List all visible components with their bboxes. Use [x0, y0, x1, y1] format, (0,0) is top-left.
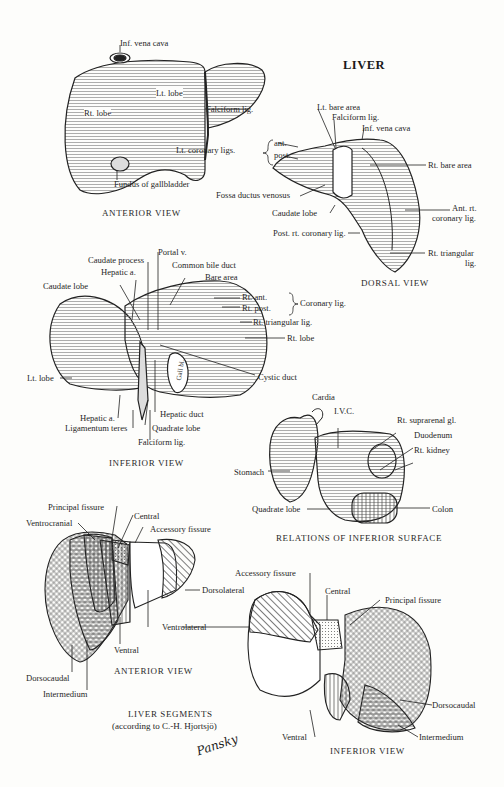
label-seg-intermedium: Intermedium: [43, 689, 87, 699]
label-inf-ventral: Ventral: [282, 732, 307, 742]
label-rt-bare-area: Rt. bare area: [428, 160, 472, 170]
label-ligamentum-teres: Ligamentum teres: [65, 423, 127, 433]
label-rt-kidney: Rt. kidney: [414, 445, 450, 455]
label-rt-ant: Rt. ant.: [242, 292, 267, 302]
label-inferior-falciform: Falciform lig.: [138, 437, 185, 447]
label-ventrolateral: Ventrolateral: [162, 622, 206, 632]
dorsal-view-drawing: [273, 109, 450, 272]
label-inf-central: Central: [325, 586, 350, 596]
label-dorsolateral: Dorsolateral: [202, 585, 244, 595]
caption-segments-inferior: INFERIOR VIEW: [330, 746, 405, 756]
label-cystic-duct: Cystic duct: [258, 372, 297, 382]
label-inferior-rt-lobe: Rt. lobe: [287, 333, 314, 343]
label-post: post.: [274, 150, 290, 160]
label-dorsal-falciform: Falciform lig.: [332, 112, 379, 122]
label-inferior-lt-lobe: Lt. lobe: [27, 373, 54, 383]
label-seg-accessory-fissure: Accessory fissure: [150, 524, 211, 534]
label-ant: ant.: [274, 138, 287, 148]
label-rt-suprarenal: Rt. suprarenal gl.: [397, 415, 456, 425]
label-inf-intermedium: Intermedium: [419, 732, 463, 742]
label-caudate-process: Caudate process: [88, 255, 144, 265]
label-ivc-relations: I.V.C.: [334, 406, 354, 416]
caption-inferior-view: INFERIOR VIEW: [109, 458, 184, 468]
caption-segments-anterior: ANTERIOR VIEW: [114, 666, 193, 676]
label-seg-ventral: Ventral: [114, 645, 139, 655]
label-ventrocranial: Ventrocranial: [26, 518, 72, 528]
label-rt-triangular-1: Rt. triangular: [428, 248, 474, 258]
label-fossa-ductus-venosus: Fossa ductus venosus: [216, 190, 290, 200]
caption-anterior-view: ANTERIOR VIEW: [102, 208, 181, 218]
brace-lt-coronary: [263, 140, 273, 165]
label-lt-lobe: Lt. lobe: [156, 88, 183, 98]
label-lt-bare-area: Lt. bare area: [317, 102, 360, 112]
label-cardia: Cardia: [312, 392, 335, 402]
label-ant-rt-coronary-1: Ant. rt.: [452, 203, 477, 213]
label-bare-area: Bare area: [205, 272, 238, 282]
label-hepatic-a-top: Hepatic a.: [101, 267, 136, 277]
label-hepatic-duct: Hepatic duct: [160, 409, 204, 419]
label-seg-central: Central: [134, 511, 159, 521]
label-duodenum: Duodenum: [414, 430, 452, 440]
label-seg-dorsocaudal: Dorsocaudal: [26, 673, 69, 683]
label-post-rt-coronary: Post. rt. coronary lig.: [273, 228, 346, 238]
label-colon: Colon: [432, 504, 453, 514]
label-dorsal-ivc: Inf. vena cava: [362, 123, 410, 133]
label-common-bile-duct: Common bile duct: [172, 260, 236, 270]
plate-title: LIVER: [343, 58, 385, 73]
label-rt-triangular-lig: Rt. triangular lig.: [253, 317, 312, 327]
label-seg-principal-fissure: Principal fissure: [48, 502, 104, 512]
label-inf-dorsocaudal: Dorsocaudal: [432, 700, 475, 710]
label-portal-v: Portal v.: [158, 247, 187, 257]
label-inf-accessory-fissure: Accessory fissure: [235, 568, 296, 578]
caption-relations: RELATIONS OF INFERIOR SURFACE: [276, 533, 442, 543]
segments-title: LIVER SEGMENTS: [128, 709, 213, 719]
label-inferior-caudate-lobe: Caudate lobe: [43, 281, 88, 291]
label-fundus-gallbladder: Fundus of gallbladder: [114, 179, 189, 189]
caption-dorsal-view: DORSAL VIEW: [361, 278, 429, 288]
label-inferior-quadrate-lobe: Quadrate lobe: [152, 423, 200, 433]
label-falciform-lig: Falciform lig.: [206, 104, 253, 114]
label-dorsal-caudate-lobe: Caudate lobe: [272, 208, 317, 218]
label-stomach: Stomach: [234, 467, 264, 477]
label-rt-lobe: Rt. lobe: [84, 108, 111, 118]
label-inf-vena-cava: Inf. vena cava: [120, 38, 168, 48]
label-hepatic-a-bottom: Hepatic a.: [80, 413, 115, 423]
label-ant-rt-coronary-2: coronary lig.: [432, 213, 476, 223]
label-coronary-lig: Coronary lig.: [300, 298, 346, 308]
liver-plate-illustration: [0, 0, 504, 787]
brace-coronary-lig: [289, 293, 298, 315]
label-rt-triangular-2: lig.: [465, 258, 476, 268]
segments-subtitle: (according to C.-H. Hjortsjö): [112, 721, 217, 731]
label-rt-post: Rt. post.: [242, 303, 271, 313]
anterior-view-drawing: [65, 45, 265, 194]
label-inf-principal-fissure: Principal fissure: [385, 595, 441, 605]
label-lt-coronary-ligs: Lt. coronary ligs.: [176, 145, 235, 155]
label-relations-quadrate-lobe: Quadrate lobe: [252, 504, 300, 514]
